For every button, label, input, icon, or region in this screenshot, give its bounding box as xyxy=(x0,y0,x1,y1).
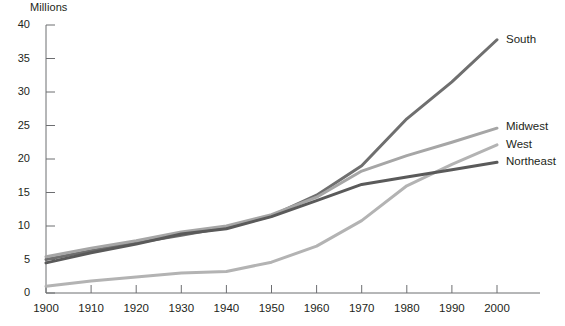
x-axis-tick-label: 2000 xyxy=(474,303,520,315)
series-line-midwest xyxy=(46,128,497,257)
x-axis-tick-label: 1970 xyxy=(339,303,385,315)
y-axis-tick-label: 20 xyxy=(4,153,30,164)
x-axis-ticks xyxy=(46,285,497,293)
y-axis-ticks xyxy=(46,25,55,293)
x-axis-tick-label: 1960 xyxy=(294,303,340,315)
line-chart: Millions 0510152025303540 19001910192019… xyxy=(0,0,565,326)
y-axis-tick-label: 15 xyxy=(4,187,30,198)
y-axis xyxy=(46,25,55,293)
x-axis-tick-label: 1940 xyxy=(203,303,249,315)
y-axis-tick-label: 0 xyxy=(4,287,30,298)
plot-area xyxy=(0,0,565,326)
x-axis-tick-label: 1910 xyxy=(68,303,114,315)
x-axis-tick-label: 1990 xyxy=(429,303,475,315)
series-label-west: West xyxy=(506,139,532,151)
y-axis-tick-label: 10 xyxy=(4,220,30,231)
x-axis-tick-label: 1980 xyxy=(384,303,430,315)
series-label-northeast: Northeast xyxy=(506,156,556,168)
x-axis-tick-label: 1930 xyxy=(158,303,204,315)
x-axis xyxy=(46,285,540,293)
y-axis-tick-label: 35 xyxy=(4,53,30,64)
series-line-northeast xyxy=(46,162,497,263)
y-axis-tick-label: 30 xyxy=(4,86,30,97)
y-axis-tick-label: 5 xyxy=(4,254,30,265)
x-axis-tick-label: 1920 xyxy=(113,303,159,315)
series-label-south: South xyxy=(506,34,536,46)
x-axis-tick-label: 1950 xyxy=(249,303,295,315)
series-label-midwest: Midwest xyxy=(506,121,548,133)
series-lines xyxy=(46,40,497,287)
y-axis-tick-label: 40 xyxy=(4,19,30,30)
x-axis-tick-label: 1900 xyxy=(23,303,69,315)
y-axis-tick-label: 25 xyxy=(4,120,30,131)
